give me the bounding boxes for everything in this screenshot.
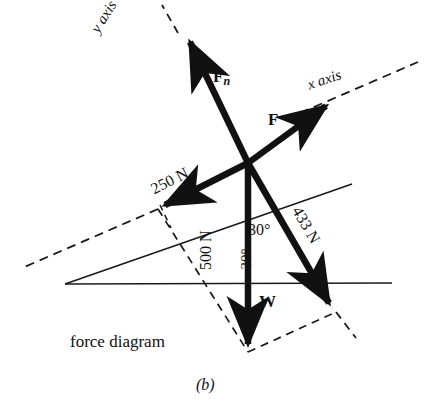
- vector-label-f: F: [268, 111, 278, 128]
- construction-dash-near-250: [160, 205, 171, 228]
- vector-label-fn-symbol: F: [213, 67, 223, 86]
- x-axis-dashed-lower-right: [336, 312, 356, 338]
- ground-line: [65, 283, 392, 284]
- vector-label-fn: Fn: [213, 68, 230, 87]
- vector-label-fn-subscript: n: [223, 74, 230, 88]
- vector-f-applied-force: [248, 106, 326, 163]
- angle-label-top-30deg: 30°: [248, 222, 270, 238]
- angle-label-bottom-30deg: 30°: [239, 249, 254, 270]
- magnitude-label-500n: 500 N: [198, 230, 214, 270]
- figure-number: (b): [196, 377, 215, 393]
- vector-fn-normal-force: [190, 42, 248, 163]
- y-axis-dashed-extension: [162, 5, 178, 33]
- force-diagram-figure: y axis x axis Fn F W 250 N 433 N 500 N 3…: [0, 0, 433, 409]
- figure-caption: force diagram: [70, 333, 165, 350]
- vector-label-w: W: [259, 293, 276, 310]
- parallelogram-side-right: [248, 312, 336, 352]
- diagram-canvas: [0, 0, 433, 409]
